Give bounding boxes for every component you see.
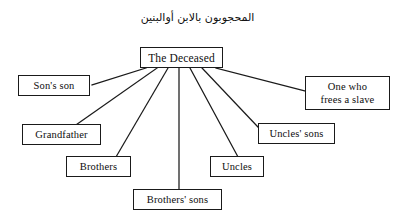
node-label: Son's son (34, 80, 75, 92)
diagram-canvas: المحجوبون بالابن أوالبنين The Deceased S… (0, 0, 395, 223)
node-grandfather[interactable]: Grandfather (22, 124, 101, 145)
node-brothers[interactable]: Brothers (66, 156, 131, 177)
edge-to-brothers (116, 68, 168, 157)
node-sons-son[interactable]: Son's son (18, 75, 90, 96)
node-label: Brothers' sons (147, 194, 208, 206)
node-label: Uncles (222, 161, 252, 173)
node-uncles[interactable]: Uncles (210, 156, 264, 177)
node-label-line-1: One who (328, 80, 367, 93)
node-label-line-2: frees a slave (321, 93, 375, 106)
node-label: Brothers (80, 161, 117, 173)
node-brothers-sons[interactable]: Brothers' sons (133, 189, 222, 210)
node-label: Uncles' sons (269, 128, 323, 140)
node-the-deceased[interactable]: The Deceased (140, 47, 223, 68)
edge-to-sons-son (92, 68, 146, 85)
edge-to-one-who-frees (216, 68, 305, 91)
node-label: Grandfather (35, 129, 87, 141)
node-uncles-sons[interactable]: Uncles' sons (258, 123, 335, 144)
node-one-who-frees-a-slave[interactable]: One who frees a slave (305, 76, 390, 110)
node-label: The Deceased (148, 52, 215, 64)
